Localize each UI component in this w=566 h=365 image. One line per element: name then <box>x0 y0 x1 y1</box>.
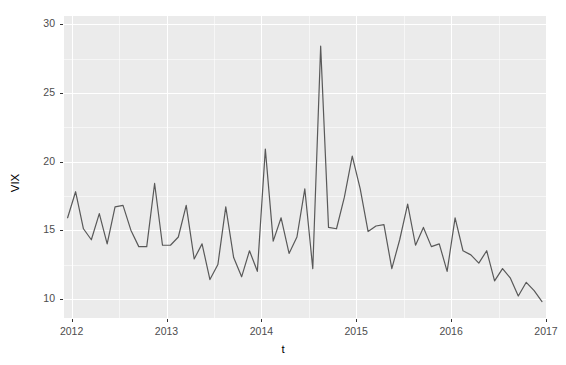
x-tick-mark <box>546 319 547 322</box>
y-tick-label: 25 <box>43 86 55 98</box>
x-tick-mark <box>451 319 452 322</box>
y-axis-title: VIX <box>9 173 21 192</box>
chart-root: VIX 1015202530 201220132014201520162017 … <box>0 0 566 365</box>
y-tick-mark <box>60 230 63 231</box>
y-tick-mark <box>60 24 63 25</box>
y-tick-mark <box>60 93 63 94</box>
y-tick-label: 10 <box>43 292 55 304</box>
x-tick-label: 2013 <box>145 325 189 337</box>
gridline-major-v <box>546 16 547 318</box>
x-tick-label: 2015 <box>334 325 378 337</box>
y-tick-mark <box>60 299 63 300</box>
x-tick-mark <box>72 319 73 322</box>
y-tick-mark <box>60 162 63 163</box>
x-tick-label: 2017 <box>524 325 566 337</box>
series-polyline <box>68 46 542 301</box>
x-tick-label: 2012 <box>50 325 94 337</box>
x-tick-mark <box>167 319 168 322</box>
x-tick-mark <box>356 319 357 322</box>
y-tick-label: 30 <box>43 17 55 29</box>
x-tick-label: 2016 <box>429 325 473 337</box>
x-tick-mark <box>261 319 262 322</box>
vix-line-series <box>64 16 546 318</box>
plot-panel <box>64 16 546 318</box>
x-axis-title: t <box>0 343 566 355</box>
x-tick-label: 2014 <box>239 325 283 337</box>
y-tick-label: 15 <box>43 223 55 235</box>
y-tick-label: 20 <box>43 155 55 167</box>
